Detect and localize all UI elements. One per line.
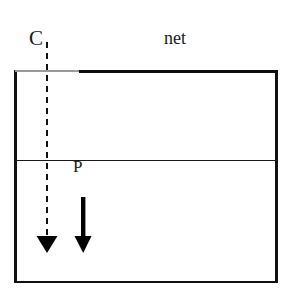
- net-diagram-svg: [0, 0, 289, 300]
- label-p: P: [73, 158, 82, 175]
- solid-arrow-shaft: [81, 197, 85, 239]
- solid-arrowhead-icon: [75, 236, 92, 253]
- dashed-arrowhead-icon: [37, 236, 58, 253]
- label-c: C: [29, 28, 43, 49]
- diagram-canvas: C net P: [0, 0, 289, 300]
- label-net: net: [164, 29, 186, 47]
